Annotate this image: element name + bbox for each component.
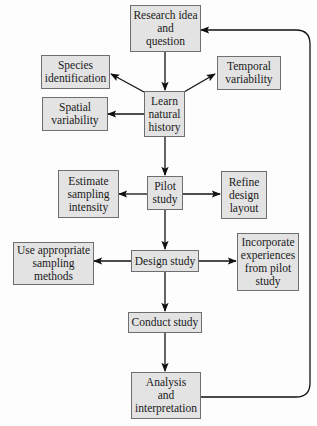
node-pilot-study: Pilot study — [147, 176, 183, 210]
node-analysis-interpretation: Analysis and interpretation — [131, 372, 201, 419]
node-incorporate-experiences: Incorporate experiences from pilot study — [237, 233, 299, 291]
flowchart-canvas: Research idea and question Species ident… — [0, 0, 317, 426]
node-species-identification: Species identification — [41, 55, 110, 89]
node-design-study: Design study — [131, 250, 199, 272]
node-spatial-variability: Spatial variability — [42, 97, 108, 131]
node-learn-natural-history: Learn natural history — [144, 91, 185, 137]
node-research-idea: Research idea and question — [130, 5, 201, 52]
node-conduct-study: Conduct study — [128, 312, 202, 333]
arrow-learn-to-temporal — [184, 74, 215, 92]
arrow-learn-to-species — [111, 74, 144, 92]
node-temporal-variability: Temporal variability — [217, 56, 281, 90]
node-estimate-sampling-intensity: Estimate sampling intensity — [58, 170, 119, 218]
node-use-appropriate-sampling-methods: Use appropriate sampling methods — [13, 242, 94, 285]
node-refine-design-layout: Refine design layout — [221, 171, 267, 219]
